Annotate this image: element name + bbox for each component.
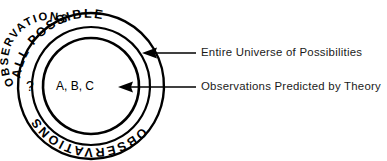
outer-ring-text-bottom-path: OBSERVATIONS bbox=[28, 114, 150, 159]
callout-label-entire-universe: Entire Universe of Possibilities bbox=[201, 46, 362, 58]
question-mark-marker: ? bbox=[26, 78, 34, 94]
callout-arrowhead-0 bbox=[142, 48, 157, 59]
inner-circle-center-label: A, B, C bbox=[56, 79, 94, 93]
outer-ring-text-bottom: OBSERVATIONS bbox=[28, 114, 150, 159]
callout-arrowhead-1 bbox=[118, 82, 133, 93]
diagram-canvas: ALL POSSIBLE OBSERVATIONS ? OBSERVATIONS… bbox=[0, 0, 387, 161]
callout-label-observations-predicted: Observations Predicted by Theory bbox=[201, 80, 381, 92]
